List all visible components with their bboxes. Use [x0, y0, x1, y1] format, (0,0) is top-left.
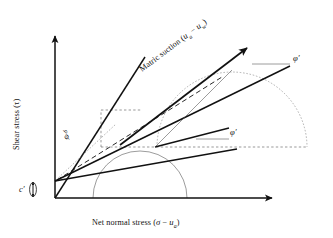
small-mohr-circle	[93, 151, 187, 198]
phi-prime-upper-mark: ′	[298, 53, 300, 63]
x-axis-label-suffix: )	[177, 218, 180, 227]
phi-b-envelope-line	[55, 57, 145, 198]
figure-canvas: Shear stress (τ) Net normal stress (σ − …	[0, 0, 333, 238]
mohr-coulomb-figure: Shear stress (τ) Net normal stress (σ − …	[0, 0, 333, 238]
phi-b-label: φb	[59, 128, 73, 141]
dashed-diagonal-envelope	[57, 77, 222, 180]
x-axis-label-prefix: Net normal stress (	[92, 218, 156, 227]
cohesion-label-prime: ′	[23, 184, 25, 194]
cohesion-label: c′	[19, 184, 25, 194]
x-axis-label-minus: −	[160, 218, 169, 227]
phi-prime-lower-mark: ′	[235, 127, 237, 137]
phi-prime-upper-label: φ′	[293, 53, 300, 63]
phi-prime-lower-wedge-line	[155, 128, 229, 147]
y-axis-label: Shear stress (τ)	[12, 99, 21, 150]
phi-prime-lower-label: φ′	[230, 127, 237, 137]
matric-suction-axis-label: Matric suction (ua − uw)	[137, 16, 210, 75]
matric-label-prefix: Matric suction (	[138, 34, 187, 74]
front-failure-envelope	[55, 149, 237, 181]
x-axis-label: Net normal stress (σ − ua)	[92, 217, 180, 229]
